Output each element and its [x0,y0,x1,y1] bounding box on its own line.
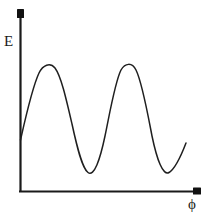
x-axis-cap-icon [193,188,201,195]
y-axis-label: E [4,34,13,49]
x-axis-label: ϕ [188,197,196,212]
plot-canvas [0,0,206,214]
y-axis-cap-icon [17,9,24,18]
energy-curve [21,64,187,173]
energy-phi-plot-figure: E ϕ [0,0,206,214]
